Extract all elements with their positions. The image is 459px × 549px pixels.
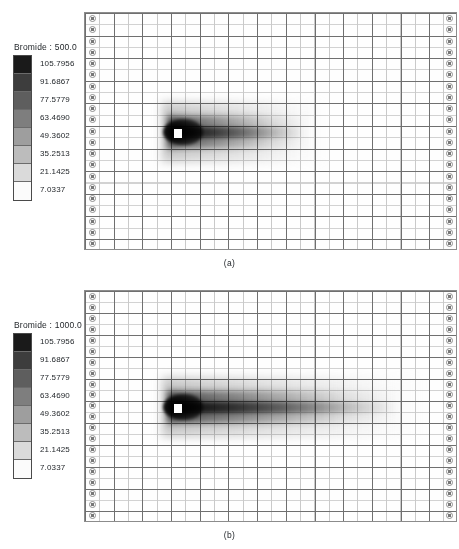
- boundary-condition-marker-icon: [446, 218, 453, 225]
- legend-tick-label: 21.1425: [40, 445, 70, 454]
- boundary-condition-marker-icon: [446, 94, 453, 101]
- boundary-condition-marker-icon: [89, 229, 96, 236]
- boundary-condition-marker-icon: [446, 413, 453, 420]
- legend-colorbar: [13, 55, 32, 201]
- legend-swatch: [14, 460, 31, 478]
- boundary-condition-marker-icon: [89, 161, 96, 168]
- boundary-condition-marker-icon: [446, 391, 453, 398]
- panel-label-b: (b): [0, 530, 459, 540]
- boundary-condition-marker-icon: [446, 381, 453, 388]
- panel-label-a: (a): [0, 258, 459, 268]
- plume-centerline-streak: [170, 127, 304, 138]
- boundary-markers-right: [442, 291, 456, 521]
- boundary-condition-marker-icon: [89, 150, 96, 157]
- boundary-condition-marker-icon: [446, 446, 453, 453]
- boundary-condition-marker-icon: [446, 38, 453, 45]
- boundary-condition-marker-icon: [89, 413, 96, 420]
- injection-well-marker: [174, 129, 182, 138]
- plume-centerline-streak: [170, 402, 397, 413]
- boundary-condition-marker-icon: [446, 184, 453, 191]
- legend-tick-label: 63.4690: [40, 113, 70, 122]
- legend-swatch: [14, 74, 31, 92]
- coarse-grid-lines: [85, 13, 456, 249]
- injection-well-marker: [174, 404, 182, 413]
- boundary-condition-marker-icon: [446, 105, 453, 112]
- boundary-condition-marker-icon: [446, 139, 453, 146]
- boundary-condition-marker-icon: [446, 468, 453, 475]
- boundary-condition-marker-icon: [446, 206, 453, 213]
- boundary-condition-marker-icon: [446, 83, 453, 90]
- legend-tick-label: 91.6867: [40, 355, 70, 364]
- boundary-condition-marker-icon: [446, 402, 453, 409]
- boundary-condition-marker-icon: [446, 150, 453, 157]
- boundary-condition-marker-icon: [446, 116, 453, 123]
- boundary-condition-marker-icon: [446, 348, 453, 355]
- boundary-condition-marker-icon: [89, 468, 96, 475]
- plume-contour-layer: [85, 291, 456, 521]
- boundary-condition-marker-icon: [446, 370, 453, 377]
- plume-source-core: [163, 394, 203, 420]
- legend-swatch: [14, 92, 31, 110]
- boundary-condition-marker-icon: [446, 128, 453, 135]
- boundary-condition-marker-icon: [446, 161, 453, 168]
- plot-area-a: [84, 12, 457, 250]
- boundary-condition-marker-icon: [89, 139, 96, 146]
- plume-source-core: [163, 119, 203, 145]
- figure-panel-b: Bromide : 1000.0 105.795691.686777.57796…: [0, 278, 459, 549]
- legend-tick-label: 63.4690: [40, 391, 70, 400]
- boundary-condition-marker-icon: [89, 94, 96, 101]
- legend-swatch: [14, 406, 31, 424]
- boundary-condition-marker-icon: [89, 381, 96, 388]
- boundary-condition-marker-icon: [89, 424, 96, 431]
- boundary-condition-marker-icon: [89, 83, 96, 90]
- boundary-condition-marker-icon: [446, 326, 453, 333]
- fine-grid-lines: [85, 13, 456, 249]
- legend-tick-label: 49.3602: [40, 131, 70, 140]
- boundary-condition-marker-icon: [446, 195, 453, 202]
- legend-tick-label: 7.0337: [40, 185, 65, 194]
- legend-swatch: [14, 424, 31, 442]
- plume-contour-layer: [85, 13, 456, 249]
- legend-swatch: [14, 370, 31, 388]
- boundary-condition-marker-icon: [89, 184, 96, 191]
- boundary-condition-marker-icon: [89, 71, 96, 78]
- legend-swatch: [14, 442, 31, 460]
- boundary-condition-marker-icon: [89, 293, 96, 300]
- legend-tick-label: 77.5779: [40, 95, 70, 104]
- boundary-condition-marker-icon: [89, 26, 96, 33]
- boundary-condition-marker-icon: [89, 490, 96, 497]
- coarse-grid-lines: [85, 291, 456, 521]
- boundary-condition-marker-icon: [89, 326, 96, 333]
- boundary-condition-marker-icon: [89, 206, 96, 213]
- boundary-condition-marker-icon: [89, 435, 96, 442]
- boundary-condition-marker-icon: [89, 218, 96, 225]
- plume-halo: [162, 102, 328, 162]
- boundary-condition-marker-icon: [446, 304, 453, 311]
- boundary-markers-left: [85, 13, 99, 249]
- legend-swatch: [14, 56, 31, 74]
- legend-swatch: [14, 352, 31, 370]
- boundary-condition-marker-icon: [89, 457, 96, 464]
- boundary-condition-marker-icon: [446, 240, 453, 247]
- boundary-condition-marker-icon: [89, 60, 96, 67]
- legend-tick-label: 35.2513: [40, 427, 70, 436]
- boundary-markers-right: [442, 13, 456, 249]
- boundary-condition-marker-icon: [446, 337, 453, 344]
- boundary-condition-marker-icon: [89, 195, 96, 202]
- boundary-condition-marker-icon: [446, 501, 453, 508]
- boundary-condition-marker-icon: [89, 304, 96, 311]
- legend-tick-label: 105.7956: [40, 59, 75, 68]
- legend-swatch: [14, 128, 31, 146]
- boundary-condition-marker-icon: [89, 370, 96, 377]
- plume-body: [167, 391, 399, 423]
- legend-tick-label: 49.3602: [40, 409, 70, 418]
- legend-tick-label: 77.5779: [40, 373, 70, 382]
- boundary-condition-marker-icon: [89, 315, 96, 322]
- legend-swatch: [14, 334, 31, 352]
- boundary-condition-marker-icon: [89, 173, 96, 180]
- legend-swatch: [14, 388, 31, 406]
- boundary-condition-marker-icon: [89, 512, 96, 519]
- boundary-condition-marker-icon: [446, 512, 453, 519]
- boundary-condition-marker-icon: [446, 293, 453, 300]
- boundary-condition-marker-icon: [89, 479, 96, 486]
